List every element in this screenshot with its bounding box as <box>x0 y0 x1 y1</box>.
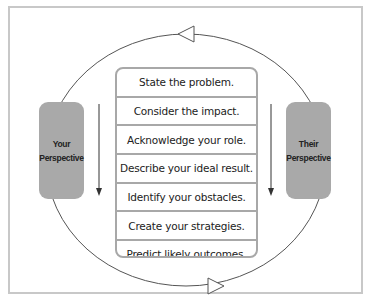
arrow-left-icon <box>178 26 194 42</box>
their-perspective-line1: Their <box>286 137 330 151</box>
your-perspective-line2: Perspective <box>39 151 83 165</box>
steps-list: State the problem. Consider the impact. … <box>115 67 258 258</box>
arrow-right-icon <box>208 278 224 294</box>
your-perspective-box: Your Perspective <box>39 102 84 199</box>
your-perspective-line1: Your <box>39 137 83 151</box>
step-item: Identify your obstacles. <box>117 184 256 213</box>
step-item: Acknowledge your role. <box>117 126 256 155</box>
step-item: Predict likely outcomes. <box>117 241 256 258</box>
step-item: State the problem. <box>117 69 256 98</box>
step-item: Create your strategies. <box>117 212 256 241</box>
step-item: Describe your ideal result. <box>117 155 256 184</box>
step-item: Consider the impact. <box>117 98 256 127</box>
their-perspective-box: Their Perspective <box>286 102 331 199</box>
down-arrow-left-icon <box>96 188 102 196</box>
down-arrow-right-icon <box>268 188 274 196</box>
their-perspective-line2: Perspective <box>286 151 330 165</box>
